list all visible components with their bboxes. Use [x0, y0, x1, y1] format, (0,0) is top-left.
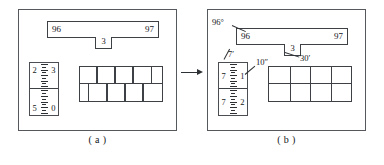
panel-a-bar-tab: 3 [95, 37, 112, 49]
panel-a-stepped-bar: 96 97 3 [47, 21, 159, 50]
panel-a-ruler-lower-cell: 5 0 [30, 89, 58, 115]
panel-a-ruler-bottom-right-value: 0 [51, 104, 55, 113]
panel-a-ruler: 2 3 5 0 [29, 62, 59, 116]
panel-b-bar-tab-value: 3 [285, 43, 300, 53]
panel-b-brick-row-bottom [269, 84, 351, 101]
panel-b-ruler-top-right-value: 1 [240, 72, 244, 81]
transition-arrow-head [197, 69, 203, 75]
panel-a-caption: ( a ) [18, 134, 177, 145]
panel-a-brick-grid [79, 66, 163, 102]
panel-b-ruler-upper-cell: 7 1 [219, 63, 247, 89]
transition-arrow-shaft [181, 72, 198, 73]
panel-b-minutes-label: 30′ [300, 54, 310, 63]
panel-b-ruler-lower-ticks [230, 90, 237, 114]
panel-b-degrees-label: 96° [212, 18, 224, 27]
panel-a-ruler-lower-ticks [41, 90, 48, 114]
panel-a-ruler-upper-cell: 2 3 [30, 63, 58, 89]
panel-b-stepped-bar: 96 97 3 [236, 28, 348, 57]
panel-b: 96 97 3 96° 30′ 7 1 7 [207, 9, 366, 131]
panel-b-ruler-bottom-left-value: 7 [222, 98, 226, 107]
panel-b-caption: ( b ) [207, 134, 366, 145]
panel-a-bar-right-value: 97 [145, 24, 154, 34]
figure-container: 96 97 3 2 3 5 0 [0, 0, 384, 165]
panel-b-brick-grid [268, 66, 352, 102]
panel-a-ruler-bottom-left-value: 5 [33, 104, 37, 113]
panel-b-ruler-upper-ticks [230, 64, 237, 87]
panel-b-ruler-top-left-value: 7 [222, 72, 226, 81]
panel-b-brick-row-top [269, 67, 351, 84]
panel-a-bar-tab-value: 3 [96, 36, 111, 46]
panel-a-ruler-top-left-value: 2 [33, 66, 37, 75]
panel-b-bar-left-value: 96 [241, 31, 250, 41]
panel-b-inches-label: 10″ [256, 58, 268, 67]
transition-arrow [181, 69, 203, 76]
panel-b-ruler-lower-cell: 7 2 [219, 89, 247, 115]
panel-a-ruler-top-right-value: 3 [51, 66, 55, 75]
panel-b-bar-right-value: 97 [334, 31, 343, 41]
panel-a-brick-row-top [80, 67, 162, 84]
panel-a-bar-left-value: 96 [52, 24, 61, 34]
panel-a-ruler-upper-ticks [41, 64, 48, 87]
panel-b-ruler-bottom-right-value: 2 [240, 98, 244, 107]
panel-b-ruler: 7 1 7 2 [218, 62, 248, 116]
panel-a-brick-row-bottom [80, 84, 162, 101]
panel-a: 96 97 3 2 3 5 0 [18, 9, 177, 131]
